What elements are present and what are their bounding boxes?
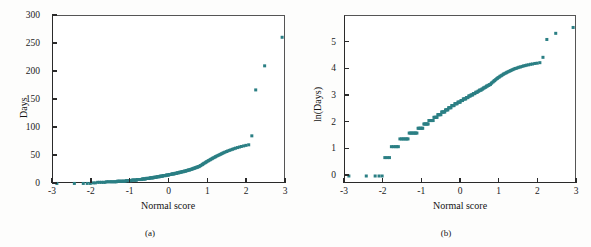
- data-point: [541, 56, 544, 59]
- data-point: [432, 119, 435, 122]
- data-point: [374, 175, 377, 178]
- x-tick-mark: [537, 178, 538, 183]
- y-tick-mark: [344, 68, 349, 69]
- y-tick-label: 100: [26, 122, 40, 132]
- data-point: [73, 182, 76, 185]
- x-tick-label: 1: [205, 186, 210, 196]
- y-tick-label: 50: [31, 150, 41, 160]
- y-tick-label: 4: [331, 63, 336, 73]
- x-tick-mark: [343, 178, 344, 183]
- scatter-points-a: [53, 16, 286, 184]
- data-point: [378, 175, 381, 178]
- x-tick-mark: [207, 178, 208, 183]
- y-tick-mark: [52, 154, 57, 155]
- data-point: [397, 145, 400, 148]
- x-tick-label: 3: [574, 186, 579, 196]
- x-tick-mark: [245, 178, 246, 183]
- x-tick-mark: [90, 178, 91, 183]
- x-tick-mark: [382, 178, 383, 183]
- y-tick-mark: [52, 98, 57, 99]
- data-point: [554, 32, 557, 35]
- y-tick-mark: [52, 126, 57, 127]
- y-tick-label: 0: [331, 170, 336, 180]
- y-tick-label: 0: [35, 178, 40, 188]
- x-tick-label: 0: [166, 186, 171, 196]
- y-tick-label: 200: [26, 66, 40, 76]
- x-tick-mark: [129, 178, 130, 183]
- x-tick-label: -1: [126, 186, 134, 196]
- data-point: [545, 38, 548, 41]
- panel-caption-b: (b): [441, 228, 452, 238]
- data-point: [250, 134, 253, 137]
- data-point: [421, 127, 424, 130]
- data-point: [436, 116, 439, 119]
- data-point: [407, 137, 410, 140]
- data-point: [439, 113, 442, 116]
- data-point: [245, 144, 248, 147]
- y-tick-label: 1: [331, 143, 336, 153]
- x-axis-title-a: Normal score: [141, 200, 195, 211]
- plot-area-a: [52, 15, 285, 183]
- x-tick-label: 3: [283, 186, 288, 196]
- panel-a: 050100150200250300 -3-2-10123 Normal sco…: [0, 0, 295, 247]
- scatter-points-b: [345, 16, 577, 184]
- y-tick-mark: [344, 148, 349, 149]
- x-tick-label: -2: [87, 186, 95, 196]
- data-point: [427, 123, 430, 126]
- data-point: [254, 88, 257, 91]
- y-tick-mark: [52, 182, 57, 183]
- x-tick-mark: [284, 178, 285, 183]
- data-point: [263, 64, 266, 67]
- y-tick-mark: [52, 42, 57, 43]
- plot-area-b: [344, 15, 576, 183]
- x-tick-mark: [421, 178, 422, 183]
- x-tick-label: -1: [417, 186, 425, 196]
- y-tick-label: 5: [331, 37, 336, 47]
- y-tick-mark: [52, 70, 57, 71]
- y-tick-mark: [52, 14, 57, 15]
- x-tick-mark: [51, 178, 52, 183]
- x-tick-mark: [498, 178, 499, 183]
- data-point: [247, 143, 250, 146]
- x-tick-label: 2: [535, 186, 540, 196]
- x-tick-mark: [575, 178, 576, 183]
- data-point: [281, 36, 284, 39]
- x-tick-label: -3: [340, 186, 348, 196]
- y-tick-label: 300: [26, 10, 40, 20]
- data-point: [86, 182, 89, 185]
- y-tick-mark: [344, 174, 349, 175]
- panel-b: 012345 -3-2-10123 Normal score ln(Days) …: [296, 0, 591, 247]
- y-axis-title-b: ln(Days): [312, 87, 323, 122]
- x-tick-label: -2: [379, 186, 387, 196]
- x-tick-label: -3: [48, 186, 56, 196]
- x-tick-mark: [459, 178, 460, 183]
- data-point: [572, 26, 575, 29]
- panel-caption-a: (a): [145, 228, 155, 238]
- data-point: [536, 62, 539, 65]
- figure-root: 050100150200250300 -3-2-10123 Normal sco…: [0, 0, 591, 247]
- x-tick-mark: [168, 178, 169, 183]
- y-tick-label: 250: [26, 38, 40, 48]
- x-tick-label: 2: [244, 186, 249, 196]
- y-tick-label: 3: [331, 90, 336, 100]
- y-tick-mark: [344, 94, 349, 95]
- x-tick-label: 1: [496, 186, 501, 196]
- y-tick-mark: [344, 121, 349, 122]
- y-tick-mark: [344, 41, 349, 42]
- x-axis-title-b: Normal score: [433, 200, 487, 211]
- data-point: [365, 175, 368, 178]
- x-tick-label: 0: [458, 186, 463, 196]
- y-axis-title-a: Days: [18, 97, 29, 118]
- data-point: [82, 182, 85, 185]
- data-point: [415, 132, 418, 135]
- data-point: [538, 61, 541, 64]
- data-point: [388, 156, 391, 159]
- y-tick-label: 2: [331, 117, 336, 127]
